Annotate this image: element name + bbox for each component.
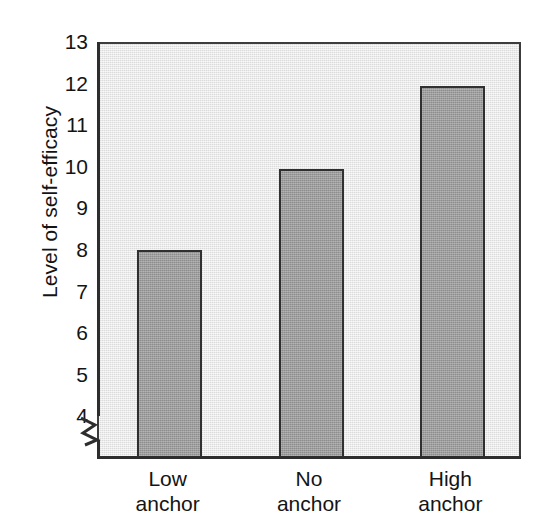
y-axis-tick-label: 5 — [52, 363, 88, 387]
y-axis-tick-label: 8 — [52, 238, 88, 262]
bar — [279, 169, 344, 458]
x-axis-category-label-line1: High — [375, 466, 525, 491]
x-axis-category-label-line2: anchor — [375, 491, 525, 516]
y-axis-tick-label: 7 — [52, 280, 88, 304]
x-axis-line — [97, 456, 521, 459]
x-axis-category-label: Noanchor — [234, 466, 384, 516]
x-axis-category-label-line2: anchor — [93, 491, 243, 516]
plot-area — [97, 42, 521, 458]
y-axis-tick-label: 12 — [52, 72, 88, 96]
y-axis-tick-label: 9 — [52, 196, 88, 220]
x-axis-category-label-line1: Low — [93, 466, 243, 491]
axis-break-zigzag-icon — [78, 414, 120, 448]
bar — [137, 250, 202, 458]
y-axis-line — [97, 42, 100, 416]
bar-chart-figure: Level of self-efficacy 45678910111213 Lo… — [0, 0, 546, 526]
x-axis-category-label: Lowanchor — [93, 466, 243, 516]
y-axis-tick-label: 13 — [52, 30, 88, 54]
x-axis-category-label-line1: No — [234, 466, 384, 491]
y-axis-tick-label: 11 — [52, 113, 88, 137]
x-axis-category-label: Highanchor — [375, 466, 525, 516]
x-axis-category-label-line2: anchor — [234, 491, 384, 516]
bar — [420, 86, 485, 458]
y-axis-tick-label: 6 — [52, 321, 88, 345]
y-axis-tick-label: 10 — [52, 155, 88, 179]
